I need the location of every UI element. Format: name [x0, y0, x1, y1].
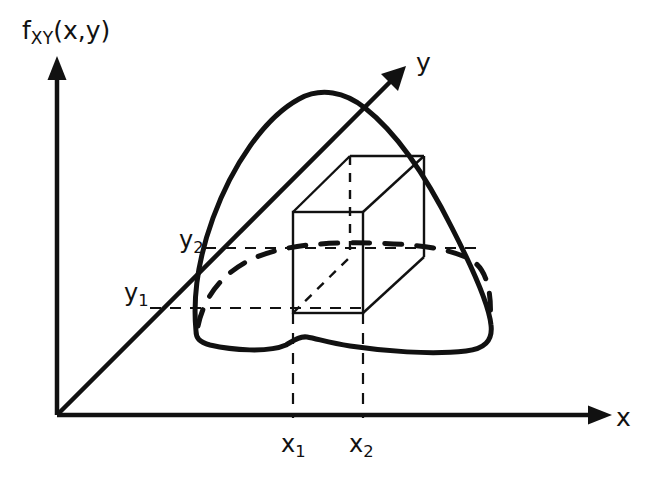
joint-density-figure-svg	[0, 0, 646, 486]
box-top-left-connector	[293, 156, 350, 212]
tick-label-x2: x2	[349, 432, 374, 456]
tick-label-y1-subscript: 1	[138, 291, 149, 310]
tick-label-x1-subscript: 1	[295, 442, 306, 461]
probability-volume-box	[293, 156, 424, 313]
tick-label-x2-subscript: 2	[363, 442, 374, 461]
tick-label-y2-subscript: 2	[193, 238, 204, 257]
tick-label-y2: y2	[179, 228, 204, 252]
vertical-axis-label: fXY(x,y)	[22, 18, 110, 43]
tick-label-y2-base: y	[179, 226, 193, 254]
tick-label-x1: x1	[281, 432, 306, 456]
vertical-density-axis-arrowhead	[48, 56, 67, 80]
vertical-axis-label-args: (x,y)	[53, 16, 110, 45]
figure-canvas: fXY(x,y) y x y1 y2 x1 x2	[0, 0, 646, 486]
box-top-right-connector	[363, 156, 424, 212]
box-front-face	[293, 212, 363, 313]
box-hidden-bottom-left-connector	[293, 257, 350, 313]
tick-label-y1-base: y	[124, 279, 138, 307]
tick-label-x1-base: x	[281, 430, 295, 458]
tick-label-y1: y1	[124, 281, 149, 305]
tick-label-x2-base: x	[349, 430, 363, 458]
horizontal-axis-label: x	[616, 405, 631, 430]
vertical-axis-label-f: f	[22, 16, 31, 45]
axes-group	[48, 56, 613, 425]
depth-axis-label: y	[416, 50, 431, 75]
depth-y-axis-line	[57, 80, 392, 415]
box-bottom-right-connector	[363, 257, 424, 313]
horizontal-x-axis-arrowhead	[588, 406, 612, 425]
vertical-axis-label-subscript: XY	[31, 28, 53, 48]
